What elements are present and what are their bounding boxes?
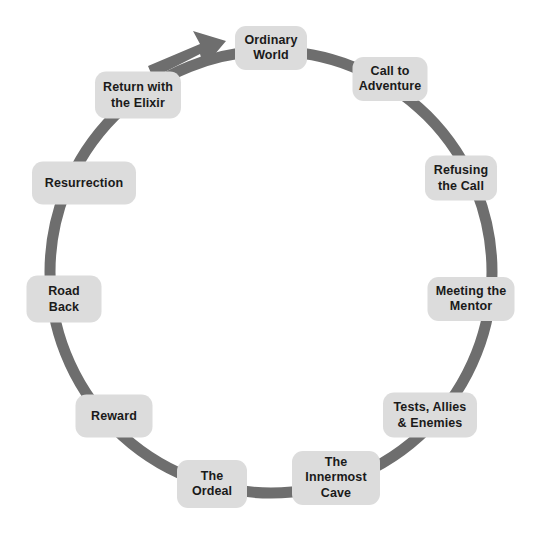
stage-node-tests-allies-enemies[interactable]: Tests, Allies & Enemies	[383, 393, 477, 438]
herojourney-diagram: Ordinary WorldCall to AdventureRefusing …	[0, 0, 547, 533]
stage-node-refusing-the-call[interactable]: Refusing the Call	[425, 156, 497, 201]
stage-node-meeting-the-mentor[interactable]: Meeting the Mentor	[428, 277, 515, 321]
stage-node-resurrection[interactable]: Resurrection	[32, 162, 136, 205]
stage-node-the-innermost-cave[interactable]: The Innermost Cave	[292, 451, 380, 505]
stage-node-return-with-the-elixir[interactable]: Return with the Elixir	[95, 72, 181, 119]
stage-node-road-back[interactable]: Road Back	[27, 276, 102, 323]
stage-node-call-to-adventure[interactable]: Call to Adventure	[353, 57, 428, 101]
stage-node-ordinary-world[interactable]: Ordinary World	[235, 26, 307, 70]
cycle-ring	[0, 0, 547, 533]
stage-node-the-ordeal[interactable]: The Ordeal	[177, 460, 247, 508]
stage-node-reward[interactable]: Reward	[76, 395, 153, 438]
